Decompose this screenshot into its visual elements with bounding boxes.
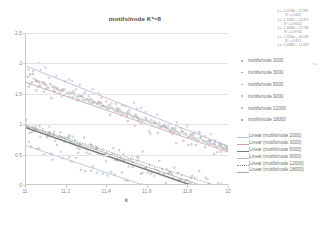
legend-line-icon — [236, 154, 249, 159]
legend-trendline-item-3[interactable]: Linear (motifs/node 9000) — [236, 154, 329, 160]
data-point — [153, 121, 155, 123]
legend-trendline-item-0[interactable]: Linear (motifs/node 2000) — [236, 133, 329, 139]
legend-item-2[interactable]: motifs/node 5000 — [236, 79, 329, 91]
legend-marker-icon — [236, 107, 248, 109]
data-point — [179, 133, 181, 135]
legend-item-1[interactable]: motifs/node 3000 — [236, 67, 329, 79]
data-point — [53, 131, 55, 133]
data-point — [84, 170, 86, 172]
data-point — [149, 121, 151, 123]
data-point — [43, 91, 45, 93]
legend-trendline-label: Linear (motifs/node 18000) — [249, 167, 323, 173]
gridline — [26, 124, 228, 125]
data-point — [125, 180, 127, 182]
legend-series[interactable]: motifs/node 2000motifs/node 3000motifs/n… — [236, 55, 329, 126]
data-point — [51, 86, 53, 88]
legend-trendline-item-4[interactable]: Linear (motifs/node 12000) — [236, 161, 329, 167]
plot-inner — [26, 33, 228, 184]
data-point — [86, 152, 88, 154]
data-point — [176, 121, 178, 123]
data-point — [108, 104, 110, 106]
data-point — [101, 97, 103, 99]
scatter-plot-svg — [26, 33, 228, 184]
data-point — [110, 103, 112, 105]
data-point — [72, 136, 74, 138]
x-tick-label: 12 — [215, 188, 241, 194]
legend-item-5[interactable]: motifs/node 18000 — [236, 114, 329, 126]
data-point — [82, 97, 84, 99]
legend-item-label: motifs/node 12000 — [248, 106, 286, 111]
legend-line-icon — [236, 161, 249, 166]
data-point — [147, 172, 149, 174]
data-point — [226, 146, 228, 148]
data-point — [145, 117, 147, 119]
data-point — [128, 166, 130, 168]
data-point — [161, 126, 163, 128]
data-point — [125, 113, 127, 115]
data-point — [150, 133, 152, 135]
legend-trendline-item-2[interactable]: Linear (motifs/node 5000) — [236, 147, 329, 153]
data-point — [141, 119, 143, 121]
data-point — [116, 107, 118, 109]
legend-item-label: motifs/node 2000 — [248, 58, 283, 63]
legend-trendline-label: Linear (motifs/node 9000) — [249, 154, 323, 160]
legend-item-3[interactable]: motifs/node 9000 — [236, 90, 329, 102]
data-point — [107, 175, 109, 177]
y-tick-label: 0.5 — [4, 152, 22, 158]
legend-trendlines[interactable]: Linear (motifs/node 2000)Linear (motifs/… — [236, 133, 329, 174]
data-point — [110, 107, 112, 109]
data-point — [150, 119, 152, 121]
data-point — [220, 151, 222, 153]
data-point — [167, 128, 169, 130]
data-point — [82, 100, 84, 102]
data-point — [174, 167, 176, 169]
data-point — [218, 145, 220, 147]
legend-trendline-label: Linear (motifs/node 2000) — [249, 133, 323, 139]
plot-area — [25, 33, 228, 185]
data-point — [127, 120, 129, 122]
legend-marker-icon — [236, 84, 248, 86]
data-point — [64, 89, 66, 91]
equation-4: y = -1.0589x + 12.629 — [262, 43, 324, 47]
data-point — [45, 67, 47, 69]
data-point — [118, 111, 120, 113]
legend-line-icon — [236, 140, 249, 145]
data-point — [108, 107, 110, 109]
data-point — [41, 81, 43, 83]
gridline — [26, 155, 228, 156]
data-point — [68, 137, 70, 139]
data-point — [90, 170, 92, 172]
data-point — [171, 173, 173, 175]
data-point — [75, 89, 77, 91]
data-point — [157, 132, 159, 134]
data-point — [143, 120, 145, 122]
legend-item-4[interactable]: motifs/node 12000 — [236, 102, 329, 114]
data-point — [214, 144, 216, 146]
data-point — [177, 132, 179, 134]
data-point — [157, 114, 159, 116]
data-point — [73, 90, 75, 92]
legend-item-label: motifs/node 9000 — [248, 94, 283, 99]
legend-trendline-item-1[interactable]: Linear (motifs/node 3000) — [236, 140, 329, 146]
data-point — [92, 100, 94, 102]
data-point — [31, 132, 33, 134]
data-point — [173, 131, 175, 133]
data-point — [54, 140, 56, 142]
x-tick-mark — [106, 185, 107, 188]
data-point — [39, 125, 41, 127]
data-point — [83, 137, 85, 139]
data-point — [158, 160, 160, 162]
data-point — [78, 95, 80, 97]
legend-item-label: motifs/node 3000 — [248, 70, 283, 75]
legend-item-0[interactable]: motifs/node 2000 — [236, 55, 329, 67]
data-point — [110, 171, 112, 173]
data-point — [68, 156, 70, 158]
data-point — [105, 101, 107, 103]
x-tick-label: 11 — [12, 188, 38, 194]
x-tick-mark — [66, 185, 67, 188]
data-point — [171, 127, 173, 129]
data-point — [114, 110, 116, 112]
legend-trendline-item-5[interactable]: Linear (motifs/node 18000) — [236, 167, 329, 173]
data-point — [210, 143, 212, 145]
data-point — [121, 111, 123, 113]
